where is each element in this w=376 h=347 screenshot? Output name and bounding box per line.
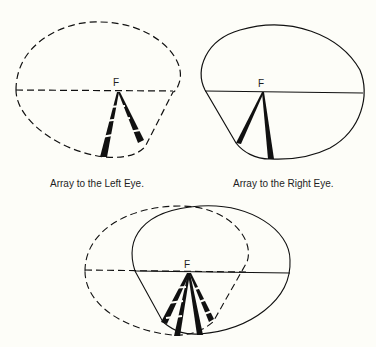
left-eye-caption: Array to the Left Eye. <box>50 178 144 189</box>
right-eye-ray-2 <box>262 92 274 159</box>
left-eye-horizon <box>16 90 173 91</box>
left-eye-figure: F <box>16 22 180 157</box>
optic-array-diagram: F F F <box>0 0 376 347</box>
left-eye-f-label: F <box>113 77 119 88</box>
right-eye-f-label: F <box>258 78 264 89</box>
combined-f-label: F <box>184 259 190 270</box>
right-eye-ray-1 <box>236 92 264 144</box>
right-eye-caption: Array to the Right Eye. <box>233 178 334 189</box>
right-eye-horizon <box>205 91 363 93</box>
left-eye-ray-1 <box>100 92 119 157</box>
right-eye-figure: F <box>201 25 364 159</box>
left-eye-ray-2 <box>118 92 144 143</box>
combined-figure: F <box>85 206 290 336</box>
